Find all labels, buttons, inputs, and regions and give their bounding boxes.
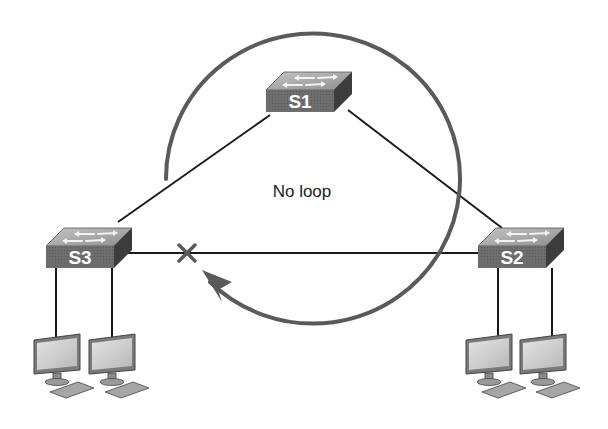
no-loop-label: No loop: [273, 182, 332, 201]
host-pc-2: [89, 334, 149, 398]
stp-loop-diagram: S1 S3 S2 No loop: [0, 0, 608, 429]
svg-text:S1: S1: [288, 91, 312, 112]
svg-text:S2: S2: [500, 247, 523, 268]
switch-s2[interactable]: S2: [478, 228, 564, 268]
host-pc-1: [34, 334, 94, 398]
switch-s3[interactable]: S3: [46, 228, 132, 268]
link-s3-s1: [118, 115, 270, 222]
switch-s1[interactable]: S1: [266, 72, 352, 112]
host-pc-4: [520, 334, 580, 398]
host-pc-3: [466, 334, 526, 398]
host-links: [56, 268, 552, 340]
svg-text:S3: S3: [68, 247, 91, 268]
link-s1-s2: [348, 110, 502, 228]
